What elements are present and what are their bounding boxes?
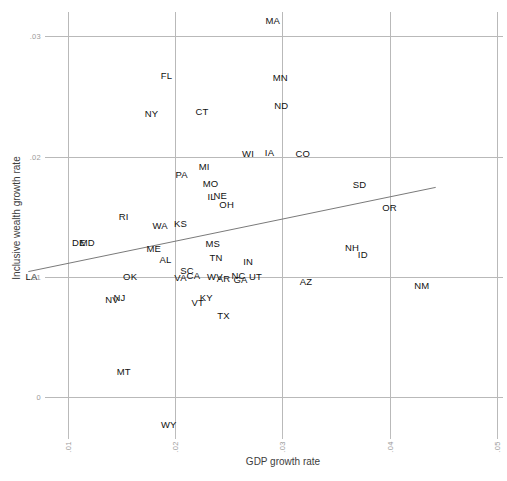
x-tick-label: .04 bbox=[385, 441, 394, 452]
data-point-label: MT bbox=[117, 365, 131, 376]
scatter-plot-figure: MAFLMNNDNYCTWIIACOMIPAMOSDILNEOHORRIWAKS… bbox=[0, 0, 507, 481]
y-axis-title: Inclusive wealth growth rate bbox=[11, 156, 22, 279]
data-point-label: KS bbox=[174, 217, 187, 228]
y-tick-label: .02 bbox=[30, 152, 41, 161]
x-tick-label: .01 bbox=[64, 441, 73, 452]
data-point-label: MI bbox=[199, 161, 210, 172]
y-tick-label: .01 bbox=[30, 273, 41, 282]
data-point-label: NJ bbox=[113, 292, 125, 303]
y-tick-label: .03 bbox=[30, 32, 41, 41]
data-point-label: OK bbox=[123, 270, 137, 281]
gridline-horizontal bbox=[45, 36, 503, 37]
x-tick-label: .03 bbox=[278, 441, 287, 452]
data-point-label: IN bbox=[243, 256, 253, 267]
data-point-label: SD bbox=[353, 179, 367, 190]
data-point-label: OH bbox=[219, 198, 234, 209]
x-tick-label: .02 bbox=[171, 441, 180, 452]
data-point-label: AZ bbox=[300, 275, 313, 286]
data-point-label: UT bbox=[249, 270, 262, 281]
data-point-label: MA bbox=[265, 14, 280, 25]
data-point-label: NM bbox=[414, 280, 429, 291]
data-point-label: KY bbox=[200, 292, 213, 303]
plot-area: MAFLMNNDNYCTWIIACOMIPAMOSDILNEOHORRIWAKS… bbox=[0, 0, 507, 481]
data-point-label: CT bbox=[195, 105, 208, 116]
data-point-label: TX bbox=[217, 310, 230, 321]
data-point-label: WA bbox=[153, 220, 168, 231]
data-point-label: FL bbox=[161, 69, 173, 80]
data-point-label: MD bbox=[80, 237, 95, 248]
x-tick-mark bbox=[390, 430, 391, 439]
gridline-vertical bbox=[390, 12, 391, 430]
data-point-label: VA bbox=[174, 272, 186, 283]
data-point-label: CO bbox=[295, 148, 310, 159]
data-point-label: WY bbox=[161, 418, 177, 429]
y-tick-label: 0 bbox=[37, 393, 41, 402]
data-point-label: ME bbox=[146, 243, 161, 254]
data-point-label: AL bbox=[160, 253, 172, 264]
data-point-label: RI bbox=[119, 210, 129, 221]
x-tick-mark bbox=[282, 430, 283, 439]
gridline-horizontal bbox=[45, 397, 503, 398]
data-point-label: NY bbox=[145, 108, 159, 119]
data-point-label: WI bbox=[242, 148, 254, 159]
data-point-label: AR bbox=[217, 273, 231, 284]
data-point-label: CA bbox=[187, 269, 201, 280]
data-point-label: MO bbox=[203, 178, 219, 189]
gridline-horizontal bbox=[45, 277, 503, 278]
x-tick-mark bbox=[68, 430, 69, 439]
gridline-vertical bbox=[497, 12, 498, 430]
x-tick-mark bbox=[175, 430, 176, 439]
data-point-label: TN bbox=[209, 251, 222, 262]
data-point-label: ND bbox=[274, 99, 288, 110]
gridline-vertical bbox=[68, 12, 69, 430]
data-point-label: ID bbox=[358, 249, 368, 260]
data-point-label: OR bbox=[382, 202, 397, 213]
data-point-label: IA bbox=[265, 146, 274, 157]
x-axis-title: GDP growth rate bbox=[246, 456, 320, 467]
data-point-label: PA bbox=[175, 168, 187, 179]
x-tick-label: .05 bbox=[492, 441, 501, 452]
data-point-label: GA bbox=[234, 274, 248, 285]
data-point-label: MN bbox=[273, 72, 288, 83]
data-point-label: MS bbox=[205, 238, 220, 249]
x-tick-mark bbox=[497, 430, 498, 439]
